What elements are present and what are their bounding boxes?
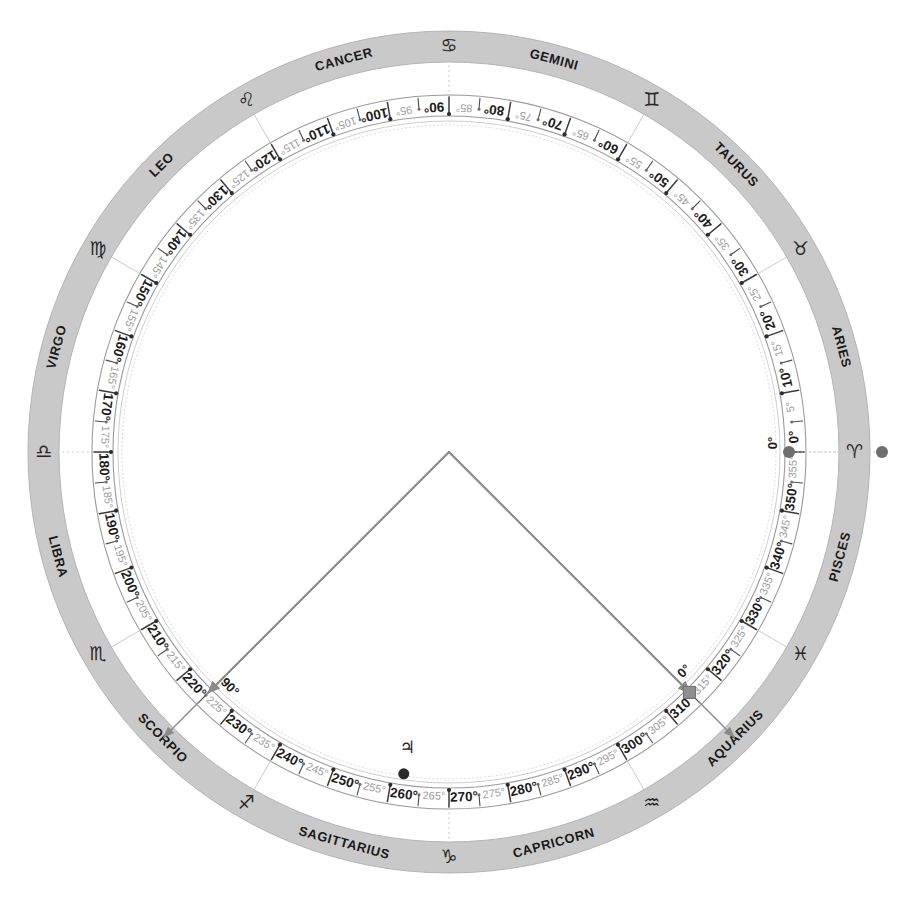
zodiac-sign-labels: ARIES♈TAURUS♉GEMINI♊CANCER♋LEO♌VIRGO♍LIB… [35,34,863,867]
degree-label-major: 180° [96,453,112,482]
degree-label-major: 0° [786,430,802,444]
tick-end-dot [759,305,762,308]
tick-end-dot [645,169,648,172]
degree-label-major: 80° [483,101,505,119]
degree-label-minor: 175° [99,425,112,448]
tick-end-dot [616,157,620,161]
tick-end-dot [477,108,480,111]
tick-end-dot [664,191,668,195]
tick-end-dot [537,118,540,121]
sign-glyph-scorpio: ♏ [89,642,106,664]
sign-divider-line [110,630,142,649]
degree-label-minor: 95° [395,104,413,118]
planet-glyph-jupiter[interactable]: ♃ [400,737,415,757]
tick-end-dot [706,233,710,237]
sign-glyph-leo: ♌ [238,88,255,110]
tick-end-dot [740,281,744,285]
tick-end-dot [447,112,451,116]
tick-end-dot [593,139,596,142]
degree-label-major: 90° [423,99,444,115]
tick-end-dot [506,117,510,121]
tick-end-dot [790,421,793,424]
sign-glyph-gemini: ♊ [643,88,660,110]
tick-end-dot [729,253,732,256]
sign-divider-line [253,113,272,145]
tick-end-dot [780,361,783,364]
tick-end-dot [765,334,769,338]
degree-label-minor: 5° [783,401,796,413]
sign-glyph-pisces: ♓ [792,642,809,664]
zodiac-wheel-diagram: 0°5°10°15°20°25°30°35°40°45°50°55°60°65°… [0,0,898,897]
sign-glyph-taurus: ♉ [792,237,809,259]
tick-end-dot [780,391,784,395]
degree-label-minor: 85° [455,102,472,115]
degree-label-minor: 355° [786,455,799,478]
sign-glyph-libra: ♎ [35,440,52,462]
tick-end-dot [302,139,305,142]
sign-divider-line [110,256,142,275]
marker-origin-point[interactable] [783,446,795,458]
sign-divider-line [253,759,272,791]
marker-aries-ref-dot[interactable] [876,446,888,458]
sign-glyph-aries: ♈ [846,440,863,462]
ray-to-315-line [449,452,691,694]
sign-divider-line [756,256,788,275]
ray-to-225-line [207,452,449,694]
angle-rays: 0°90° [163,452,734,738]
tick-end-dot [691,207,694,210]
marker-jupiter-point[interactable] [398,768,409,779]
degree-label-major: 270° [450,789,479,805]
origin-degree-label: 0° [765,437,780,449]
sign-glyph-capricorn: ♑ [440,845,457,867]
sign-glyph-aquarius: ♒ [643,791,660,813]
tick-end-dot [563,132,567,136]
sign-glyph-cancer: ♋ [440,34,457,56]
sign-divider-line [627,759,646,791]
sign-glyph-sagittarius: ♐ [238,791,255,813]
sign-divider-line [756,630,788,649]
degree-label-minor: 265° [422,789,445,802]
wheel-canvas: 0°5°10°15°20°25°30°35°40°45°50°55°60°65°… [0,0,898,897]
sign-glyph-virgo: ♍ [89,237,106,259]
sign-divider-line [627,113,646,145]
marker-angle-start[interactable] [683,686,695,698]
tick-end-dot [418,108,421,111]
planet-glyphs: ♃ [400,737,415,757]
ray-to-315-value-label: 0° [674,661,693,680]
